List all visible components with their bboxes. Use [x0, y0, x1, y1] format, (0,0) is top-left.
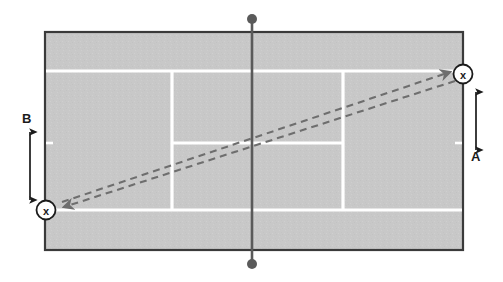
net-post-bottom-icon [247, 259, 257, 269]
player-position-near-left-marker: x [37, 201, 56, 220]
court-surface [45, 32, 463, 250]
court-illustration: x x [0, 0, 503, 282]
dimension-label-b: B [22, 112, 31, 125]
dimension-label-a: A [471, 150, 480, 163]
net-post-top-icon [247, 14, 257, 24]
svg-text:x: x [460, 69, 467, 81]
svg-text:x: x [43, 205, 50, 217]
player-position-far-right-marker: x [454, 65, 473, 84]
tennis-court-diagram: x x B A [0, 0, 503, 282]
